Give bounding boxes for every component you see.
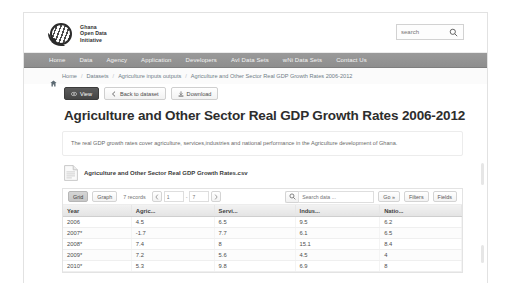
cell-national: 4 — [380, 250, 462, 261]
nav-item-application[interactable]: Application — [141, 57, 171, 63]
cell-agric: 7.2 — [131, 250, 214, 261]
page-title: Agriculture and Other Sector Real GDP Gr… — [64, 108, 487, 123]
table-row[interactable]: 2008* 7.4 8 15.1 8.4 — [63, 239, 462, 250]
site-logo[interactable]: Ghana Open Data Initiative — [49, 17, 139, 50]
cell-agric: 5.3 — [131, 261, 214, 272]
prev-page-button[interactable] — [152, 191, 162, 202]
cell-national: 6.5 — [380, 228, 462, 239]
main-navigation: Home Data Agency Application Developers … — [24, 53, 487, 68]
resource-file-name[interactable]: Agriculture and Other Sector Real GDP Gr… — [84, 170, 248, 176]
data-grid: Year Agric... Servi... Indus... Natio...… — [63, 205, 462, 272]
scroll-hint-lower[interactable] — [481, 245, 484, 263]
cell-year: 2008* — [63, 239, 131, 250]
cell-national: 8 — [380, 261, 462, 272]
globe-logo-icon — [49, 20, 79, 48]
data-search-group — [285, 191, 374, 203]
view-button[interactable]: View — [64, 87, 99, 100]
download-button-label: Download — [187, 91, 212, 97]
column-header-national[interactable]: Natio... — [380, 205, 462, 217]
breadcrumb-item-datasets[interactable]: Datasets — [86, 73, 108, 79]
data-explorer-toolbar: Grid Graph 7 records - — [63, 189, 462, 205]
scroll-hint-upper[interactable] — [481, 163, 484, 185]
page-from-input[interactable] — [164, 191, 184, 202]
cell-services: 5.6 — [214, 250, 295, 261]
header-search-input[interactable] — [397, 25, 445, 39]
nav-item-data[interactable]: Data — [79, 57, 92, 63]
cell-services: 6.5 — [214, 217, 295, 228]
nav-item-wni-data-sets[interactable]: wNi Data Sets — [283, 57, 322, 63]
eye-icon — [71, 91, 77, 97]
tab-graph[interactable]: Graph — [92, 191, 117, 202]
breadcrumb-separator: / — [113, 73, 115, 79]
column-header-industry[interactable]: Indus... — [295, 205, 380, 217]
fields-button[interactable]: Fields — [433, 191, 457, 202]
cell-industry: 4.5 — [295, 250, 380, 261]
resource-actions: View Back to dataset Download — [24, 87, 487, 100]
download-icon — [178, 91, 184, 97]
header-search[interactable] — [396, 24, 464, 40]
breadcrumb-item-current: Agriculture and Other Sector Real GDP Gr… — [191, 73, 353, 79]
cell-national: 8.4 — [380, 239, 462, 250]
breadcrumb-item-dataset[interactable]: Agriculture inputs outputs — [118, 73, 181, 79]
filters-button[interactable]: Filters — [404, 191, 429, 202]
data-explorer: Grid Graph 7 records - — [62, 188, 463, 273]
table-header-row: Year Agric... Servi... Indus... Natio... — [63, 205, 462, 217]
tab-grid[interactable]: Grid — [68, 191, 88, 202]
nav-item-contact-us[interactable]: Contact Us — [336, 57, 367, 63]
cell-year: 2009* — [63, 250, 131, 261]
column-header-year[interactable]: Year — [63, 205, 131, 217]
table-row[interactable]: 2007* -1.7 7.7 6.1 6.5 — [63, 228, 462, 239]
cell-agric: 4.5 — [131, 217, 214, 228]
column-header-services[interactable]: Servi... — [214, 205, 295, 217]
table-row[interactable]: 2010* 5.3 9.8 6.9 8 — [63, 261, 462, 272]
record-count: 7 records — [123, 194, 145, 200]
cell-services: 8 — [214, 239, 295, 250]
nav-item-developers[interactable]: Developers — [186, 57, 217, 63]
site-masthead: Ghana Open Data Initiative — [24, 13, 487, 53]
browser-page: Ghana Open Data Initiative Home Data Age — [0, 0, 511, 283]
column-header-agric[interactable]: Agric... — [131, 205, 214, 217]
chevron-left-icon — [111, 91, 117, 97]
cell-year: 2007* — [63, 228, 131, 239]
data-search-input[interactable] — [298, 191, 374, 203]
cell-year: 2006 — [63, 217, 131, 228]
download-button[interactable]: Download — [171, 87, 219, 100]
go-button[interactable]: Go » — [378, 191, 400, 202]
cell-services: 7.7 — [214, 228, 295, 239]
cell-industry: 6.1 — [295, 228, 380, 239]
cell-industry: 6.9 — [295, 261, 380, 272]
pagination: - — [152, 191, 222, 202]
next-page-button[interactable] — [211, 191, 221, 202]
search-icon[interactable] — [449, 28, 458, 37]
nav-item-home[interactable]: Home — [49, 57, 65, 63]
breadcrumb: Home / Datasets / Agriculture inputs out… — [24, 68, 487, 84]
home-icon — [50, 73, 57, 80]
resource-description: The real GDP growth rates cover agricult… — [62, 131, 463, 156]
cell-agric: -1.7 — [131, 228, 214, 239]
cell-industry: 9.5 — [295, 217, 380, 228]
cell-year: 2010* — [63, 261, 131, 272]
nav-item-avi-data-sets[interactable]: AvI Data Sets — [231, 57, 269, 63]
cell-services: 9.8 — [214, 261, 295, 272]
cell-national: 6.2 — [380, 217, 462, 228]
back-to-dataset-button[interactable]: Back to dataset — [104, 87, 166, 100]
nav-item-agency[interactable]: Agency — [106, 57, 127, 63]
table-row[interactable]: 2009* 7.2 5.6 4.5 4 — [63, 250, 462, 261]
logo-wordmark: Ghana Open Data Initiative — [80, 24, 107, 43]
site-container: Ghana Open Data Initiative Home Data Age — [23, 12, 488, 283]
breadcrumb-separator: / — [81, 73, 83, 79]
page-to-input[interactable] — [189, 191, 209, 202]
cell-industry: 15.1 — [295, 239, 380, 250]
search-icon[interactable] — [285, 191, 298, 203]
breadcrumb-item-home[interactable]: Home — [62, 73, 77, 79]
cell-agric: 7.4 — [131, 239, 214, 250]
resource-file[interactable]: Agriculture and Other Sector Real GDP Gr… — [64, 165, 487, 181]
csv-file-icon — [64, 165, 78, 181]
breadcrumb-separator: / — [185, 73, 187, 79]
page-range-dash: - — [186, 194, 188, 200]
table-row[interactable]: 2006 4.5 6.5 9.5 6.2 — [63, 217, 462, 228]
view-button-label: View — [80, 91, 92, 97]
back-to-dataset-label: Back to dataset — [120, 91, 159, 97]
logo-line-3: Initiative — [80, 37, 107, 43]
